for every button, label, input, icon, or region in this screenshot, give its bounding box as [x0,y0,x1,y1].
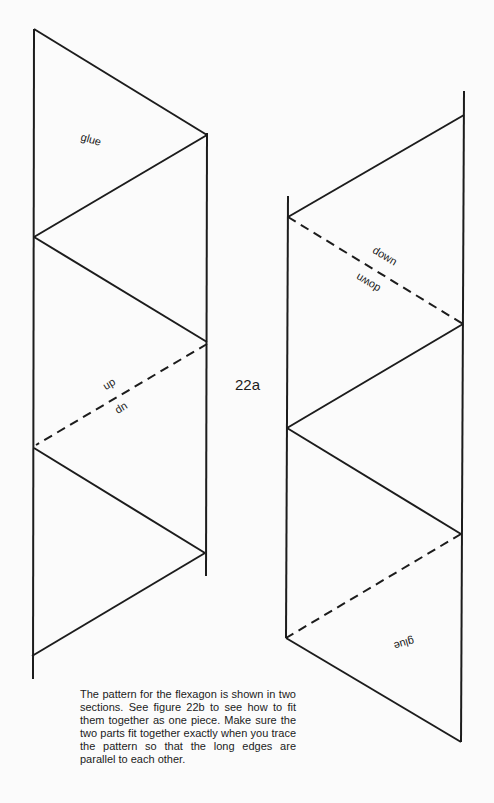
glue-label-left: glue [79,131,102,148]
flexagon-pattern-diagram: glue up up down down glue [0,0,494,803]
right-edge-1 [288,115,464,217]
right-edge-3 [287,428,461,534]
left-edge-5 [32,553,205,656]
right-fold-dashed-2 [286,534,461,638]
up-label: up [101,375,118,392]
right-pattern-section [286,91,464,742]
right-fold-dashed-1 [288,217,463,324]
figure-caption: The pattern for the flexagon is shown in… [80,688,296,766]
right-edge-4 [286,638,461,742]
left-short-edge [206,133,207,576]
right-short-edge [286,196,288,638]
down-label-inverted: down [354,272,383,296]
left-edge-4 [34,448,205,553]
down-label: down [371,244,400,268]
left-fold-dashed [36,344,207,445]
right-edge-2 [287,324,463,428]
up-label-inverted: up [114,401,131,418]
glue-label-right-inverted: glue [392,635,415,652]
right-long-edge [461,91,464,742]
left-edge-2 [34,135,207,237]
left-edge-3 [34,237,207,342]
left-long-edge [33,29,34,679]
left-pattern-section [32,29,207,679]
left-edge-1 [34,29,207,135]
figure-number: 22a [235,376,260,393]
